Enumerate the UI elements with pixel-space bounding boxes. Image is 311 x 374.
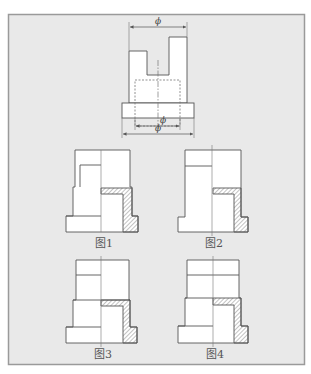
option-label-3: 图3: [94, 348, 112, 361]
option-label-1: 图1: [95, 237, 113, 250]
option-label-2: 图2: [205, 237, 223, 250]
option-figure-3: [66, 256, 137, 347]
dimension-phi-flange: ϕ: [155, 123, 161, 133]
option-figure-4: [178, 256, 248, 347]
engineering-drawing: ϕ ϕ ϕ 图1 图2 图3 图4: [0, 0, 311, 374]
option-figure-2: [178, 145, 248, 236]
figure-frame: [9, 15, 305, 365]
option-label-4: 图4: [206, 348, 224, 361]
option-figure-1: [66, 150, 138, 232]
dimension-phi-top: ϕ: [155, 16, 161, 26]
